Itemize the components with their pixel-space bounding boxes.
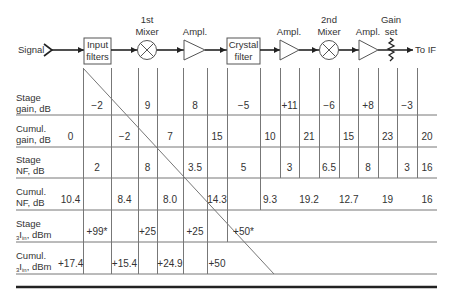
table-cell: +24.9 (157, 258, 183, 269)
grid-line (299, 68, 300, 178)
table-cell: 14.3 (207, 194, 227, 205)
mixer-2-label-2: Mixer (312, 26, 346, 37)
table-cell: 8 (138, 162, 157, 173)
table-cell: +25 (138, 226, 157, 237)
amplifier-1-icon (184, 40, 205, 60)
input-filters-label-2: filters (85, 51, 110, 62)
table-cell: 12.7 (339, 194, 358, 205)
table-cell: 20 (417, 131, 437, 142)
table-cell: 8 (358, 162, 378, 173)
table-cell: 23 (378, 131, 397, 142)
table-cell: 6.5 (319, 162, 339, 173)
grid-line (227, 68, 228, 242)
table-cell: +50* (227, 226, 260, 237)
row-label-cumul-gain: Cumul.gain, dB (16, 123, 51, 145)
table-cell: 8.0 (157, 194, 183, 205)
table-cell: 9.3 (260, 194, 280, 205)
mixer-1-label-1: 1st (130, 14, 164, 25)
table-cell: +15.4 (111, 258, 138, 269)
table-cell: 3 (397, 162, 417, 173)
gain-set-label-1: Gain (378, 14, 404, 25)
grid-line (207, 68, 208, 274)
table-cell: 0 (58, 131, 83, 142)
table-cell: +50 (207, 258, 227, 269)
table-cell: 8.4 (111, 194, 138, 205)
table-cell: 10 (260, 131, 280, 142)
table-cell: 15 (207, 131, 227, 142)
amplifier-3-icon (359, 40, 378, 60)
table-cell: 5 (227, 162, 260, 173)
row-label-stage-iip3: Stage 3Iin, dBm (16, 218, 51, 244)
input-chevron-icon (44, 44, 52, 56)
table-cell: +99* (83, 226, 111, 237)
table-cell: −2 (111, 131, 138, 142)
row-label-cumul-iip3: Cumul. 3Iin, dBm (16, 250, 51, 276)
block-diagram (0, 0, 451, 292)
table-cell: 16 (417, 194, 437, 205)
mixer-2-label-1: 2nd (312, 14, 346, 25)
table-cell: +11 (280, 100, 299, 111)
row-label-stage-gain: Stagegain, dB (16, 92, 51, 114)
table-cell: 15 (339, 131, 358, 142)
amplifier-2-icon (280, 40, 299, 60)
table-cell: 8 (183, 100, 207, 111)
to-if-output-label: To IF (415, 44, 436, 55)
amplifier-2-label: Ampl. (274, 26, 304, 37)
table-cell: 2 (83, 162, 111, 173)
grid-line (378, 68, 379, 178)
grid-line (339, 68, 340, 178)
table-cell: −2 (83, 100, 111, 111)
table-cell: 19.2 (299, 194, 319, 205)
crystal-filter-label-2: filter (228, 51, 259, 62)
grid-line (111, 68, 112, 274)
table-cell: −5 (227, 100, 260, 111)
table-cell: 9 (138, 100, 157, 111)
table-cell: +17.4 (58, 258, 83, 269)
crystal-filter-label-1: Crystal (228, 39, 259, 50)
table-cell: 19 (378, 194, 397, 205)
table-cell: −3 (397, 100, 417, 111)
input-filters-label-1: Input (85, 39, 110, 50)
table-cell: 16 (417, 162, 437, 173)
table-cell: −6 (319, 100, 339, 111)
table-cell: +25 (183, 226, 207, 237)
amplifier-1-label: Ampl. (180, 26, 210, 37)
grid-line (157, 68, 158, 274)
signal-input-label: Signal (18, 44, 44, 55)
table-cell: 7 (157, 131, 183, 142)
table-cell: 10.4 (58, 194, 83, 205)
row-label-stage-nf: StageNF, dB (16, 154, 45, 176)
mixer-1-label-2: Mixer (130, 26, 164, 37)
row-label-cumul-nf: Cumul.NF, dB (16, 186, 46, 208)
table-cell: 3 (280, 162, 299, 173)
table-cell: 3.5 (183, 162, 207, 173)
gain-set-label-2: set (378, 26, 404, 37)
table-cell: +8 (358, 100, 378, 111)
table-cell: 21 (299, 131, 319, 142)
